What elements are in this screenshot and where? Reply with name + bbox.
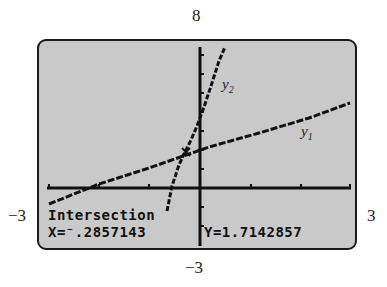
xmax-label: 3 bbox=[367, 206, 376, 226]
xmin-label: −3 bbox=[8, 206, 26, 226]
calculator-screen: y2 y1 Intersection X=⁻.2857143 Y=1.71428… bbox=[37, 39, 357, 250]
y1-label: y1 bbox=[301, 123, 313, 142]
readout-title: Intersection bbox=[48, 207, 155, 223]
curve-y2 bbox=[167, 47, 225, 211]
readout-y: Y=1.7142857 bbox=[204, 224, 302, 240]
readout-x: X=⁻.2857143 bbox=[48, 224, 146, 240]
ymin-label: −3 bbox=[185, 258, 203, 278]
y2-label: y2 bbox=[222, 76, 234, 95]
ymax-label: 8 bbox=[192, 6, 201, 26]
